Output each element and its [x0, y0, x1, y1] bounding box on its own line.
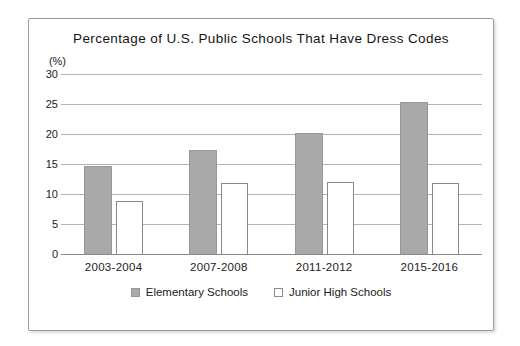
bar-elementary-schools-2003-2004 [84, 166, 112, 254]
chart-figure: Percentage of U.S. Public Schools That H… [0, 0, 520, 346]
bar-junior-high-schools-2003-2004 [116, 201, 143, 254]
legend-label: Junior High Schools [289, 286, 391, 298]
bar-elementary-schools-2007-2008 [189, 150, 217, 254]
x-axis-category-labels: 2003-20042007-20082011-20122015-2016 [61, 261, 482, 273]
x-tick-label-2007-2008: 2007-2008 [166, 261, 271, 273]
legend-swatch-icon [274, 288, 283, 297]
legend-item-junior-high-schools: Junior High Schools [274, 286, 391, 298]
y-tick-label-20: 20 [29, 127, 58, 141]
legend-swatch-icon [131, 288, 140, 297]
x-tick-label-2015-2016: 2015-2016 [377, 261, 482, 273]
bar-elementary-schools-2011-2012 [295, 133, 323, 254]
y-tick-label-0: 0 [29, 247, 58, 261]
legend-item-elementary-schools: Elementary Schools [131, 286, 248, 298]
y-tick-label-30: 30 [29, 67, 58, 81]
bar-junior-high-schools-2011-2012 [327, 182, 354, 254]
legend: Elementary SchoolsJunior High Schools [29, 286, 493, 298]
bar-elementary-schools-2015-2016 [400, 102, 428, 254]
y-axis-unit-label: (%) [29, 55, 66, 67]
bar-junior-high-schools-2007-2008 [221, 183, 248, 254]
bar-group-2007-2008 [166, 74, 271, 254]
bar-junior-high-schools-2015-2016 [432, 183, 459, 254]
bar-group-2015-2016 [377, 74, 482, 254]
x-tick-label-2003-2004: 2003-2004 [61, 261, 166, 273]
plot-area [61, 74, 482, 255]
y-tick-label-5: 5 [29, 217, 58, 231]
chart-frame: Percentage of U.S. Public Schools That H… [28, 18, 494, 331]
bar-group-2003-2004 [61, 74, 166, 254]
x-tick-label-2011-2012: 2011-2012 [272, 261, 377, 273]
chart-title: Percentage of U.S. Public Schools That H… [29, 31, 493, 46]
legend-label: Elementary Schools [146, 286, 248, 298]
y-tick-label-10: 10 [29, 187, 58, 201]
bar-group-2011-2012 [272, 74, 377, 254]
y-tick-label-15: 15 [29, 157, 58, 171]
y-tick-label-25: 25 [29, 97, 58, 111]
